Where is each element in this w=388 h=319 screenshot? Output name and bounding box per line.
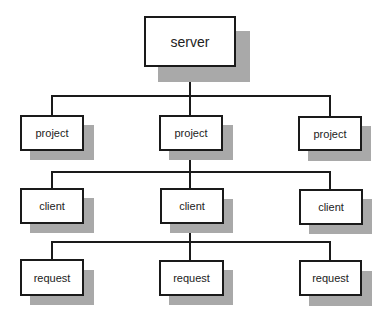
request-node-right: request — [299, 260, 362, 296]
client-node-mid: client — [160, 188, 224, 224]
request-label: request — [312, 272, 349, 284]
request-node-mid: request — [159, 260, 224, 296]
project-node-right: project — [298, 116, 362, 151]
client-node-right: client — [299, 189, 363, 225]
connector-project-left — [51, 95, 53, 116]
project-label: project — [35, 127, 68, 139]
client-label: client — [39, 200, 65, 212]
connector-project-mid — [189, 95, 191, 116]
request-label: request — [34, 272, 71, 284]
project-node-left: project — [20, 115, 84, 151]
server-node: server — [144, 16, 236, 67]
connector-request-right — [329, 241, 331, 260]
connector-client-mid — [189, 171, 191, 189]
connector-request-mid — [189, 241, 191, 260]
connector-project-right — [329, 95, 331, 116]
project-label: project — [174, 127, 207, 139]
connector-project-bus — [51, 95, 331, 97]
request-label: request — [173, 272, 210, 284]
client-label: client — [318, 201, 344, 213]
client-node-left: client — [20, 188, 84, 224]
project-node-mid: project — [159, 115, 223, 151]
connector-request-left — [51, 241, 53, 260]
server-label: server — [171, 34, 210, 50]
connector-client-right — [329, 171, 331, 189]
request-node-left: request — [20, 259, 84, 296]
client-label: client — [179, 200, 205, 212]
project-label: project — [313, 128, 346, 140]
connector-client-left — [51, 171, 53, 189]
connector-request-bus — [51, 241, 331, 243]
connector-client-bus — [51, 171, 331, 173]
